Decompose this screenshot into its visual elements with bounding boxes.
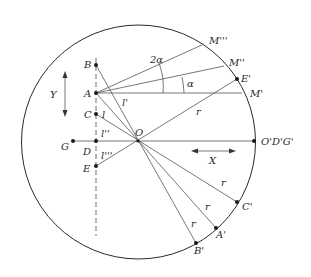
label-d: D [82, 146, 91, 157]
label-odg-prime: O'D'G' [261, 136, 293, 147]
label-c: C [84, 109, 92, 120]
x-arrow-left-head-icon [191, 149, 198, 154]
point-e-prime [235, 77, 239, 81]
label-r-b: r [191, 218, 197, 229]
label-e-prime: E' [240, 73, 251, 84]
label-x: X [208, 155, 217, 166]
angle-arc-2alpha [159, 63, 163, 93]
label-c-prime: C' [242, 201, 252, 212]
point-odg-prime [252, 139, 256, 143]
label-2alpha: 2α [149, 54, 163, 65]
label-e: E [82, 163, 91, 174]
label-b-prime: B' [193, 245, 204, 256]
label-r-c: r [221, 177, 227, 188]
label-m-double-prime: M'' [228, 57, 245, 68]
label-y: Y [50, 89, 58, 100]
label-o: O [135, 127, 143, 138]
point-c [94, 112, 98, 116]
y-arrow-down-head-icon [63, 110, 68, 117]
label-a-prime: A' [215, 229, 226, 240]
y-arrow-up-head-icon [63, 71, 68, 78]
label-a: A [83, 88, 91, 99]
point-a [94, 91, 98, 95]
point-e [94, 164, 98, 168]
label-l-double-prime: l'' [101, 128, 110, 139]
angle-arc-alpha [182, 77, 184, 93]
label-m-triple-prime: M''' [208, 35, 228, 46]
diagram-figure: B A C D E G O M''' M'' E' M' O'D'G' C' A… [0, 0, 311, 277]
label-alpha: α [187, 78, 194, 89]
point-o [136, 139, 139, 142]
line-e-eprime [96, 79, 237, 166]
point-b [94, 63, 98, 67]
label-g: G [61, 141, 69, 152]
point-d [94, 139, 98, 143]
label-r-a: r [205, 201, 211, 212]
line-a-m2 [96, 66, 224, 93]
label-r-e: r [196, 106, 202, 117]
label-l-prime: l' [122, 97, 128, 108]
label-l-triple-prime: l''' [101, 150, 112, 161]
label-m-prime: M' [249, 88, 263, 99]
point-g [71, 139, 75, 143]
label-l: l [102, 109, 105, 120]
x-arrow-right-head-icon [229, 149, 236, 154]
point-c-prime [235, 200, 239, 204]
label-b: B [83, 59, 91, 70]
